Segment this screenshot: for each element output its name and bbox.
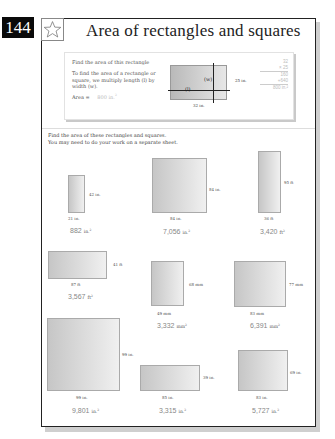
length-dimension: 83 mm (250, 311, 264, 316)
answer: 3,315in.2 (159, 407, 186, 414)
problem-shape (238, 350, 288, 391)
example-length-dimension: 32 in. (193, 103, 205, 108)
example-area: Area = 800 in.2 (72, 93, 117, 100)
area-value: 800 in.2 (97, 94, 116, 100)
instructions-line: You may need to do your work on a separa… (48, 139, 178, 146)
problem-shape (68, 175, 85, 213)
problem-shape (234, 261, 286, 307)
width-label: (w) (204, 76, 212, 82)
length-dimension: 87 ft (71, 282, 80, 287)
length-label: (l) (185, 86, 191, 92)
length-dimension: 83 in. (256, 395, 268, 400)
problem-shape (258, 151, 281, 213)
page-number: 144 (2, 17, 34, 38)
answer: 5,727in.2 (252, 407, 279, 414)
section-divider (42, 128, 315, 129)
example-calculation: 32 × 25 160 +640 800 in.² (260, 59, 288, 91)
answer: 7,056in.2 (163, 228, 190, 235)
example-rectangle (170, 65, 227, 100)
example-explanation: To find the area of a rectangle or squar… (72, 70, 162, 90)
area-label: Area = (72, 94, 90, 100)
problem-shape (48, 251, 107, 279)
problem-shape (47, 318, 120, 391)
answer: 3,567ft2 (68, 293, 93, 300)
answer: 9,801in.2 (72, 407, 99, 414)
width-dimension: 41 ft (113, 262, 122, 267)
problem-shape (151, 261, 184, 306)
width-dimension: 39 in. (203, 375, 215, 380)
length-dimension: 49 mm (157, 311, 171, 316)
example-width-dimension: 25 in. (235, 78, 247, 83)
instructions-line: Find the area of these rectangles and sq… (48, 132, 178, 139)
worked-example: Find the area of this rectangle To find … (64, 52, 294, 120)
width-dimension: 68 mm (189, 282, 203, 287)
length-dimension: 21 in. (68, 216, 80, 221)
calc-line: 160 (260, 71, 288, 78)
width-dimension: 99 in. (122, 352, 134, 357)
answer: 882in.2 (70, 227, 91, 234)
width-dimension: 69 in. (290, 370, 302, 375)
width-dimension: 95 ft (284, 180, 293, 185)
example-heading: Find the area of this rectangle (72, 59, 149, 65)
star-icon (43, 20, 62, 39)
width-dimension: 84 in. (209, 187, 221, 192)
answer: 3,332mm2 (157, 322, 187, 329)
page-title: Area of rectangles and squares (86, 21, 311, 41)
star-badge (41, 18, 64, 41)
answer: 6,391mm2 (250, 322, 280, 329)
length-dimension: 99 in. (76, 395, 88, 400)
width-arrow (213, 63, 214, 103)
problem-shape (140, 365, 200, 391)
width-dimension: 77 mm (289, 282, 303, 287)
answer: 3,420ft2 (260, 228, 285, 235)
length-dimension: 84 in. (170, 216, 182, 221)
calc-line: 800 in.² (260, 84, 288, 91)
instructions: Find the area of these rectangles and sq… (48, 132, 178, 146)
problem-shape (152, 158, 207, 213)
length-arrow (168, 90, 230, 91)
width-dimension: 42 in. (89, 192, 101, 197)
length-dimension: 36 ft (264, 216, 273, 221)
length-dimension: 85 in. (162, 395, 174, 400)
